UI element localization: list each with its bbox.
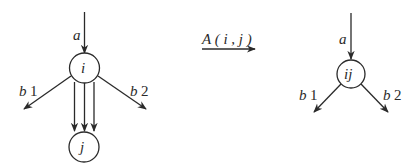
- diagram-canvas: a i b 1 b 2 j A ( i , j ) a ij b 1 b 2: [0, 0, 419, 168]
- label-a-right: a: [339, 31, 347, 47]
- left-graph: a i b 1 b 2 j: [19, 12, 149, 162]
- right-graph: a ij b 1 b 2: [299, 13, 402, 112]
- label-b1-right-index: 1: [310, 87, 318, 103]
- label-b1-left: b: [19, 83, 27, 99]
- label-a-left: a: [73, 27, 81, 43]
- transformation: A ( i , j ): [201, 31, 255, 49]
- edge-b2-left: [98, 76, 146, 109]
- node-ij-label: ij: [344, 66, 352, 82]
- node-i-label: i: [81, 60, 85, 76]
- label-b1-right: b: [299, 87, 307, 103]
- label-b2-left: b: [130, 83, 138, 99]
- label-b1-left-index: 1: [30, 83, 38, 99]
- label-b2-right: b: [383, 87, 391, 103]
- edge-b1-right: [314, 84, 341, 112]
- label-b2-left-index: 2: [141, 83, 149, 99]
- transformation-label: A ( i , j ): [201, 31, 252, 48]
- label-b2-right-index: 2: [394, 87, 402, 103]
